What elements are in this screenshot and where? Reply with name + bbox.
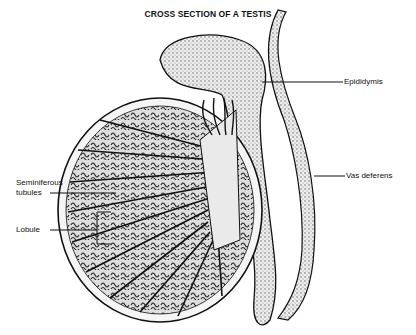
label-seminiferous-line2: tubules <box>16 188 42 198</box>
label-lobule: Lobule <box>16 225 40 235</box>
testis-illustration <box>0 0 416 335</box>
label-seminiferous-line1: Seminiferous <box>16 178 63 188</box>
label-vas-deferens: Vas deferens <box>346 171 393 181</box>
testis-body <box>58 98 262 322</box>
label-epididymis: Epididymis <box>344 77 383 87</box>
